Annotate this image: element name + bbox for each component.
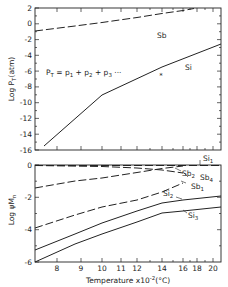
tick-label: -6 bbox=[25, 258, 33, 267]
curve-sb1 bbox=[35, 183, 183, 228]
tick-label: 20 bbox=[208, 264, 218, 273]
curve-sb-top bbox=[35, 9, 194, 32]
tick-label: -4 bbox=[25, 225, 33, 234]
top-x-ticks bbox=[57, 8, 213, 150]
label-sb2: Sb2 bbox=[182, 169, 195, 179]
curve-si2 bbox=[35, 196, 221, 250]
tick-label: -2 bbox=[25, 193, 33, 202]
tick-label: -10 bbox=[20, 98, 32, 107]
tick-label: 16 bbox=[178, 264, 188, 273]
tick-label: 8 bbox=[55, 264, 60, 273]
curve-sb4 bbox=[35, 166, 183, 188]
top-y-axis-label: Log PT(atm) bbox=[7, 57, 17, 101]
top-y-ticks bbox=[35, 8, 221, 150]
bottom-y-tick-labels: 0 -2 -4 -6 bbox=[25, 161, 33, 267]
tick-label: -14 bbox=[20, 130, 32, 139]
tick-label: 12 bbox=[132, 264, 142, 273]
curve-sb2 bbox=[35, 166, 183, 174]
tick-label: 2 bbox=[27, 4, 32, 13]
tick-label: 11 bbox=[116, 264, 126, 273]
equation-label: PT = p1 + p2 + p3 ··· bbox=[46, 68, 121, 78]
tick-label: -4 bbox=[25, 51, 33, 60]
tick-label: 18 bbox=[192, 264, 202, 273]
tick-label: 9 bbox=[79, 264, 84, 273]
tick-label: -12 bbox=[20, 114, 32, 123]
x-tick-labels: 8 9 10 11 12 14 16 18 20 bbox=[55, 264, 218, 273]
tick-label: 0 bbox=[27, 19, 32, 28]
bottom-panel: 0 -2 -4 -6 8 9 10 11 12 14 16 18 20 Temp… bbox=[7, 154, 221, 285]
top-panel: 2 0 -2 -4 -6 -8 -10 -12 -14 -16 Log PT(a… bbox=[7, 4, 221, 155]
top-y-tick-labels: 2 0 -2 -4 -6 -8 -10 -12 -14 -16 bbox=[20, 4, 32, 155]
curve-si-top bbox=[44, 44, 221, 146]
tick-label: 10 bbox=[97, 264, 107, 273]
label-sb1: Sb1 bbox=[191, 182, 204, 192]
tick-label: -2 bbox=[25, 35, 33, 44]
tick-label: 14 bbox=[157, 264, 167, 273]
label-sb: Sb bbox=[157, 31, 167, 40]
figure: 2 0 -2 -4 -6 -8 -10 -12 -14 -16 Log PT(a… bbox=[0, 0, 228, 287]
label-sb4: Sb4 bbox=[200, 173, 214, 183]
label-si1: Si1 bbox=[203, 154, 213, 164]
bottom-y-axis-label: Log ψMn bbox=[7, 194, 17, 225]
label-si3: Si3 bbox=[188, 211, 199, 221]
tick-label: 0 bbox=[27, 161, 32, 170]
x-axis-label: Temperature x10-2(°C) bbox=[85, 275, 170, 285]
top-plot-frame bbox=[35, 8, 221, 150]
tick-label: -6 bbox=[25, 67, 33, 76]
label-si: Si bbox=[185, 63, 192, 72]
tick-label: -16 bbox=[20, 146, 32, 155]
bottom-x-ticks bbox=[57, 258, 213, 262]
arrow-mark: * bbox=[159, 72, 163, 80]
label-si2: Si2 bbox=[163, 189, 173, 199]
tick-label: -8 bbox=[25, 82, 33, 91]
